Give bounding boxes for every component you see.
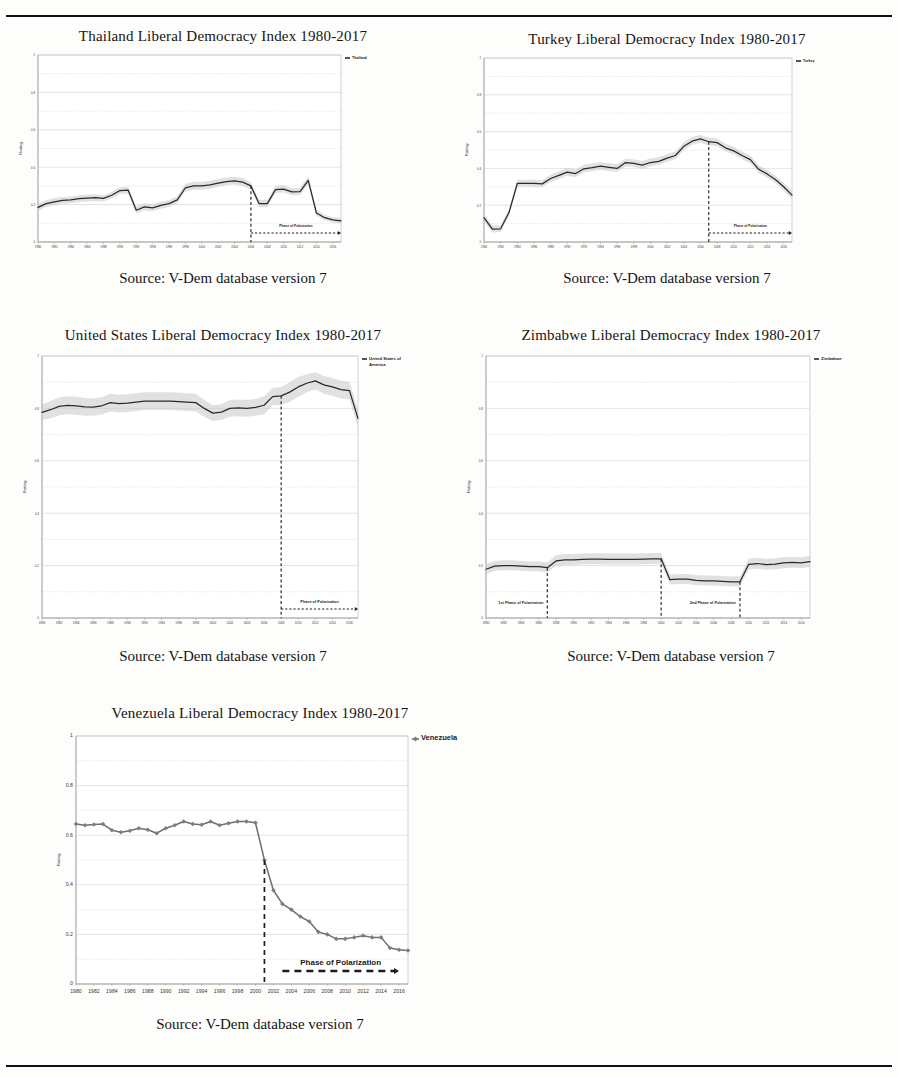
page-top-rule: [6, 15, 892, 17]
x-tick-label: 1986: [531, 245, 538, 249]
x-tick-label: 2016: [346, 621, 353, 625]
x-tick-label: 1990: [124, 621, 131, 625]
x-tick-label: 1992: [588, 621, 595, 625]
x-tick-label: 2002: [227, 621, 234, 625]
chart-svg-united-states: 00.20.40.60.81Rating19801982198419861988…: [8, 350, 428, 642]
chart-title-united-states: United States Liberal Democracy Index 19…: [8, 327, 438, 344]
x-tick-label: 2010: [280, 245, 287, 249]
x-tick-label: 1986: [124, 988, 136, 994]
x-tick-label: 1992: [581, 245, 588, 249]
x-tick-label: 1984: [106, 988, 118, 994]
y-tick-label: 0.4: [66, 881, 73, 887]
y-tick-label: 0: [70, 980, 73, 986]
x-tick-label: 2016: [780, 245, 787, 249]
x-tick-label: 2002: [268, 988, 280, 994]
x-tick-label: 2008: [264, 245, 271, 249]
x-tick-label: 2004: [693, 621, 700, 625]
y-axis-title: Rating: [466, 480, 471, 493]
y-tick-label: 0.6: [479, 459, 484, 463]
x-tick-label: 1992: [133, 245, 140, 249]
x-tick-label: 1984: [514, 245, 521, 249]
x-tick-label: 2010: [339, 988, 351, 994]
x-tick-label: 1996: [166, 245, 173, 249]
y-tick-label: 0: [481, 616, 483, 620]
x-tick-label: 1992: [141, 621, 148, 625]
x-tick-label: 1982: [497, 245, 504, 249]
y-tick-label: 0.6: [66, 832, 73, 838]
chart-svg-zimbabwe: 00.20.40.60.81Rating19801982198419861988…: [452, 350, 876, 642]
y-tick-label: 1: [479, 56, 481, 60]
y-tick-label: 0.4: [35, 512, 40, 516]
chart-source-united-states: Source: V-Dem database version 7: [8, 648, 438, 665]
x-tick-label: 1996: [623, 621, 630, 625]
x-tick-label: 1990: [160, 988, 172, 994]
x-tick-label: 2012: [747, 245, 754, 249]
x-tick-label: 1988: [100, 245, 107, 249]
x-tick-label: 2016: [393, 988, 405, 994]
x-tick-label: 1994: [605, 621, 612, 625]
legend-marker: [413, 737, 418, 742]
x-tick-label: 2004: [681, 245, 688, 249]
legend-label: America: [369, 362, 386, 367]
legend-label: Turkey: [803, 59, 815, 63]
phase-of-polarization-label: 1st Phase of Polarization: [498, 601, 544, 605]
x-tick-label: 1988: [553, 621, 560, 625]
y-tick-label: 0.2: [477, 204, 481, 208]
y-tick-label: 0.8: [66, 782, 73, 788]
x-tick-label: 2008: [728, 621, 735, 625]
chart-title-zimbabwe: Zimbabwe Liberal Democracy Index 1980-20…: [452, 327, 890, 344]
chart-area-united-states: 00.20.40.60.81Rating19801982198419861988…: [8, 350, 438, 642]
x-tick-label: 2004: [231, 245, 238, 249]
x-tick-label: 2014: [764, 245, 771, 249]
x-tick-label: 1994: [196, 988, 208, 994]
y-tick-label: 0.4: [477, 167, 481, 171]
chart-svg-thailand: 00.20.40.60.81Rating19801982198419861988…: [8, 49, 403, 264]
chart-source-venezuela: Source: V-Dem database version 7: [40, 1016, 480, 1033]
chart-area-turkey: 00.20.40.60.81Rating19801982198419861988…: [452, 52, 882, 264]
y-tick-label: 0.6: [477, 130, 481, 134]
x-tick-label: 1990: [564, 245, 571, 249]
x-tick-label: 2012: [763, 621, 770, 625]
x-tick-label: 2002: [664, 245, 671, 249]
x-tick-label: 2004: [286, 988, 298, 994]
x-tick-label: 1998: [182, 245, 189, 249]
y-tick-label: 0.6: [35, 459, 40, 463]
phase-of-polarization-label: Phase of Polarization: [300, 600, 339, 604]
y-tick-label: 0: [33, 240, 35, 244]
y-axis-title: Rating: [56, 853, 61, 866]
chart-panel-venezuela: Venezuela Liberal Democracy Index 1980-2…: [40, 705, 480, 1033]
y-tick-label: 0.8: [35, 407, 40, 411]
legend-label: Venezuela: [421, 733, 458, 742]
y-tick-label: 0.8: [477, 93, 481, 97]
x-tick-label: 2010: [731, 245, 738, 249]
y-axis-title: Rating: [18, 142, 23, 155]
x-tick-label: 1984: [68, 245, 75, 249]
x-tick-label: 2006: [697, 245, 704, 249]
x-tick-label: 1990: [570, 621, 577, 625]
x-tick-label: 1982: [88, 988, 100, 994]
phase-of-polarization-label: Phase of Polarization: [734, 224, 767, 228]
x-tick-label: 2014: [375, 988, 387, 994]
y-tick-label: 1: [70, 732, 73, 738]
y-tick-label: 0: [37, 616, 39, 620]
x-tick-label: 2000: [647, 245, 654, 249]
y-tick-label: 0.2: [31, 203, 35, 207]
y-tick-label: 0.2: [66, 931, 73, 937]
x-tick-label: 1980: [70, 988, 82, 994]
x-tick-label: 1996: [175, 621, 182, 625]
page-bottom-rule: [6, 1065, 892, 1067]
chart-panel-thailand: Thailand Liberal Democracy Index 1980-20…: [8, 28, 438, 287]
chart-title-turkey: Turkey Liberal Democracy Index 1980-2017: [452, 31, 882, 48]
y-axis-title: Rating: [22, 480, 27, 493]
x-tick-label: 1988: [142, 988, 154, 994]
x-tick-label: 2006: [248, 245, 255, 249]
x-tick-label: 2012: [312, 621, 319, 625]
x-tick-label: 1984: [518, 621, 525, 625]
x-tick-label: 1996: [614, 245, 621, 249]
chart-source-turkey: Source: V-Dem database version 7: [452, 270, 882, 287]
chart-area-venezuela: 00.20.40.60.81Rating19801982198419861988…: [40, 728, 480, 1008]
x-tick-label: 2002: [675, 621, 682, 625]
chart-title-venezuela: Venezuela Liberal Democracy Index 1980-2…: [40, 705, 480, 722]
x-tick-label: 2008: [321, 988, 333, 994]
x-tick-label: 2006: [710, 621, 717, 625]
